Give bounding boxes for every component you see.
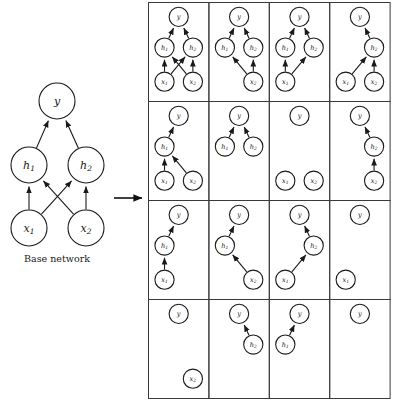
node-label-y: y	[236, 211, 241, 219]
cell-nodes: yh2x1x2	[336, 7, 384, 91]
edge-x1-to-h2	[171, 57, 185, 74]
cell-node-x2: x2	[183, 369, 202, 388]
sub-network-enumeration-figure: yh1h2x1x2 Base network yh1h2x1x2yh1h2x2y…	[0, 0, 399, 401]
grid-cell-14: yh2	[209, 300, 269, 399]
edge-h2-to-y	[305, 28, 310, 38]
grid-cell-11: yh2x1	[269, 201, 329, 300]
cell-node-x2: x2	[244, 72, 263, 91]
cell-node-y: y	[169, 205, 188, 224]
cell-nodes: yh1x1	[155, 205, 188, 289]
node-label-y: y	[357, 112, 362, 120]
cell-node-y: y	[290, 7, 309, 26]
cell-nodes: yh1x1x2	[155, 106, 203, 190]
cell-node-h2: h2	[244, 137, 263, 156]
edge-x1-to-h2	[292, 255, 306, 272]
base-network: yh1h2x1x2	[11, 83, 104, 246]
node-label-y: y	[53, 95, 61, 108]
grid-cell-1: yh1h2x1x2	[149, 3, 209, 102]
edge-h2-to-y	[244, 127, 249, 137]
cell-node-h2: h2	[183, 38, 202, 57]
edge-h2-to-y	[184, 28, 189, 38]
node-label-y: y	[297, 211, 302, 219]
cell-node-x2: x2	[183, 72, 202, 91]
edge-h1-to-y	[169, 28, 174, 38]
grid-cell-7: yx1x2	[269, 102, 329, 201]
edge-x2-to-h1	[233, 57, 247, 74]
base-node-x1: x1	[11, 210, 47, 246]
grid-cell-5: yh1x1x2	[149, 102, 209, 201]
edge-h2-to-y	[305, 226, 310, 236]
cell-nodes: yh1x2	[215, 205, 263, 289]
grid-cell-15: yh1	[269, 300, 329, 399]
grid-cell-3: yh1h2x1	[269, 3, 329, 102]
edge-h2-to-y	[365, 127, 370, 137]
cell-node-x2: x2	[183, 171, 202, 190]
cell-node-h1: h1	[155, 137, 174, 156]
cell-node-x2: x2	[364, 171, 383, 190]
node-label-y: y	[236, 112, 241, 120]
cell-node-h2: h2	[364, 137, 383, 156]
cell-node-y: y	[230, 7, 249, 26]
cell-node-x1: x1	[276, 270, 295, 289]
cell-node-h1: h1	[215, 137, 234, 156]
edge-x2-to-h1	[43, 181, 73, 214]
cell-edges	[290, 325, 295, 335]
grid-cell-4: yh2x1x2	[330, 3, 390, 102]
base-node-x2: x2	[68, 210, 104, 246]
node-label-y: y	[176, 310, 181, 318]
cell-node-h1: h1	[155, 38, 174, 57]
cell-node-x1: x1	[336, 72, 355, 91]
base-node-y: y	[39, 83, 75, 119]
node-label-y: y	[176, 211, 181, 219]
cell-edges	[244, 325, 249, 335]
edge-h1-to-y	[290, 28, 295, 38]
cell-node-y: y	[290, 205, 309, 224]
edge-h2-to-y	[244, 28, 249, 38]
edge-h1-to-y	[229, 127, 234, 137]
cell-nodes: yx2	[169, 304, 202, 388]
cell-node-y: y	[350, 304, 369, 323]
cell-nodes: yx1	[336, 205, 369, 289]
cell-node-x2: x2	[304, 171, 323, 190]
cell-nodes: yh2x1	[276, 205, 324, 289]
grid-cell-8: yh2x2	[330, 102, 390, 201]
base-node-h2: h2	[68, 147, 104, 183]
cell-node-x1: x1	[155, 72, 174, 91]
node-label-y: y	[236, 13, 241, 21]
cell-node-x1: x1	[276, 171, 295, 190]
node-label-y: y	[236, 310, 241, 318]
cell-node-x1: x1	[155, 270, 174, 289]
cell-node-y: y	[350, 106, 369, 125]
grid-cell-2: yh1h2x2	[209, 3, 269, 102]
edge-h2-to-y	[365, 28, 370, 38]
cell-node-y: y	[230, 106, 249, 125]
cell-node-x2: x2	[244, 270, 263, 289]
edge-h1-to-y	[290, 325, 295, 335]
cell-node-y: y	[169, 304, 188, 323]
edge-x2-to-h1	[172, 156, 186, 173]
cell-node-h2: h2	[304, 236, 323, 255]
edge-x2-to-h1	[172, 57, 186, 74]
cell-node-y: y	[290, 304, 309, 323]
cell-node-y: y	[230, 304, 249, 323]
sub-network-grid: yh1h2x1x2yh1h2x2yh1h2x1yh2x1x2yh1x1x2yh1…	[149, 3, 391, 399]
cell-node-h2: h2	[244, 335, 263, 354]
cell-node-y: y	[230, 205, 249, 224]
node-label-y: y	[176, 112, 181, 120]
node-label-y: y	[357, 13, 362, 21]
cell-node-y: y	[290, 106, 309, 125]
node-label-y: y	[357, 211, 362, 219]
cell-node-y: y	[350, 7, 369, 26]
cell-node-y: y	[350, 205, 369, 224]
edge-x2-to-h1	[233, 255, 247, 272]
figure-root: yh1h2x1x2 Base network yh1h2x1x2yh1h2x2y…	[0, 0, 399, 401]
cell-node-h1: h1	[276, 335, 295, 354]
grid-cell-16: y	[330, 300, 390, 399]
grid-cell-13: yx2	[149, 300, 209, 399]
cell-nodes: yh1h2x1	[276, 7, 324, 91]
cell-node-h1: h1	[276, 38, 295, 57]
edge-h1-to-y	[229, 226, 234, 236]
node-label-y: y	[297, 112, 302, 120]
cell-node-x1: x1	[276, 72, 295, 91]
cell-node-x1: x1	[336, 270, 355, 289]
